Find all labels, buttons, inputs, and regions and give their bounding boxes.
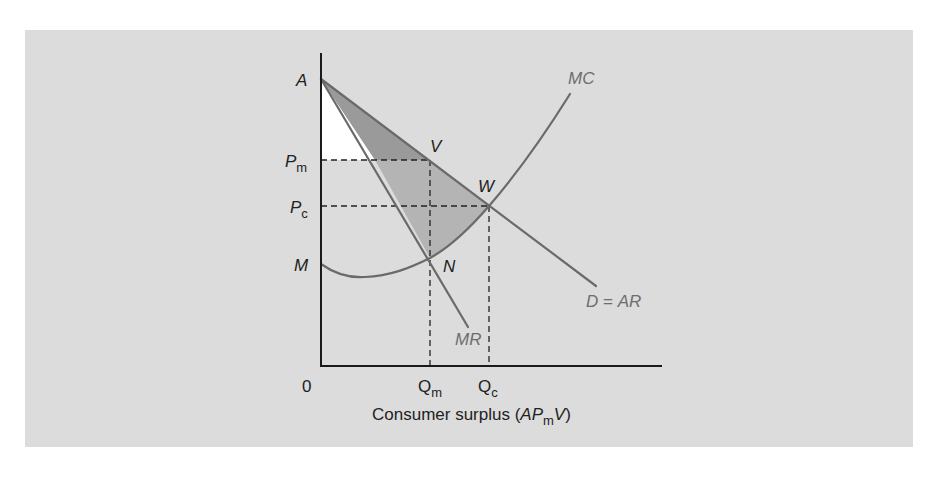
label-V: V (430, 137, 443, 156)
label-A: A (295, 71, 307, 90)
label-Qm: Qm (418, 377, 442, 400)
demand-curve (321, 79, 596, 286)
label-MR: MR (455, 330, 481, 349)
monopoly-diagram: A Pm Pc M 0 Qm Qc V W N MC MR D = AR Con… (0, 0, 946, 479)
label-D-AR: D = AR (586, 292, 641, 311)
medium-shaded-region (375, 160, 489, 258)
label-M: M (294, 256, 309, 275)
label-N: N (443, 257, 456, 276)
figure-caption: Consumer surplus (APmV) (372, 405, 571, 428)
label-Qc: Qc (478, 377, 498, 400)
label-MC: MC (568, 69, 595, 88)
label-W: W (478, 177, 496, 196)
label-origin: 0 (302, 377, 311, 396)
label-Pc: Pc (290, 198, 308, 221)
label-Pm: Pm (285, 152, 307, 175)
